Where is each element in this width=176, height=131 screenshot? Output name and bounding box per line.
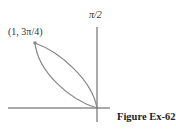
petal-inner-arc bbox=[35, 43, 97, 108]
figure-caption: Figure Ex-62 bbox=[117, 111, 175, 122]
petal-outer-arc bbox=[35, 43, 97, 108]
vertical-axis-label: π/2 bbox=[89, 9, 102, 20]
point-label: (1, 3π/4) bbox=[8, 26, 43, 37]
polar-figure: π/2 (1, 3π/4) Figure Ex-62 bbox=[0, 0, 176, 131]
marked-point bbox=[33, 41, 37, 45]
